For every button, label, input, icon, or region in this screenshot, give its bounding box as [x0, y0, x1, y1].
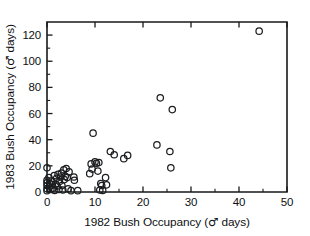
x-axis-title: 1982 Bush Occupancy (♂ days) — [84, 215, 250, 229]
y-tick-label: 80 — [29, 81, 41, 93]
scan-caption-ghost — [8, 228, 302, 235]
data-point-marker — [157, 95, 163, 101]
y-tick-label: 60 — [29, 108, 41, 120]
y-tick-label: 0 — [35, 186, 41, 198]
y-axis-title: 1983 Bush Occupancy (♂ days) — [3, 24, 17, 190]
svg-text:1982 Bush Occupancy (♂ days): 1982 Bush Occupancy (♂ days) — [84, 215, 250, 229]
scatter-plot-figure: 01020304050 020406080100120 1982 Bush Oc… — [0, 0, 310, 236]
y-tick-label: 20 — [29, 160, 41, 172]
y-tick-label: 40 — [29, 134, 41, 146]
y-tick-label: 100 — [22, 55, 41, 67]
y-tick-label: 120 — [22, 29, 41, 41]
x-tick-label: 20 — [137, 196, 149, 208]
plot-canvas: 01020304050 020406080100120 1982 Bush Oc… — [0, 0, 310, 236]
x-tick-label: 50 — [281, 196, 293, 208]
plot-border — [47, 22, 287, 192]
scatter-markers-group — [44, 28, 263, 194]
axis-frame — [47, 22, 287, 192]
x-axis-tick-labels: 01020304050 — [44, 196, 293, 208]
x-tick-label: 10 — [89, 196, 101, 208]
y-axis-tick-labels: 020406080100120 — [22, 29, 41, 198]
data-point-marker — [102, 174, 108, 180]
x-tick-label: 0 — [44, 196, 50, 208]
data-point-marker — [95, 168, 101, 174]
data-point-marker — [75, 187, 81, 193]
svg-text:1983 Bush Occupancy (♂ days): 1983 Bush Occupancy (♂ days) — [3, 24, 17, 190]
data-point-marker — [168, 165, 174, 171]
data-point-marker — [154, 142, 160, 148]
data-point-marker — [90, 130, 96, 136]
data-point-marker — [167, 148, 173, 154]
data-point-marker — [169, 106, 175, 112]
x-tick-label: 40 — [233, 196, 245, 208]
x-axis-major-ticks — [47, 22, 287, 192]
data-point-marker — [256, 28, 262, 34]
x-tick-label: 30 — [185, 196, 197, 208]
